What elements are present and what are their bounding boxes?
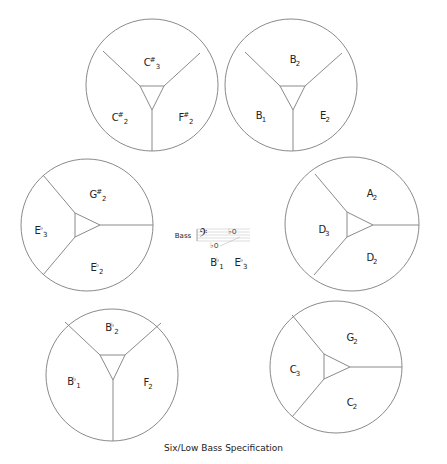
label-top-right-1: B1 <box>256 110 266 124</box>
label-top-right-0: B2 <box>290 54 300 68</box>
note-eb3-icon: ♭o <box>228 227 237 236</box>
label-top-left-0: C#3 <box>144 57 160 71</box>
note-bb1-icon: ♭o <box>210 241 219 250</box>
label-bottom-right-1: C3 <box>290 364 300 378</box>
figure-caption: Six/Low Bass Specification <box>0 443 447 453</box>
label-bottom-right-2: C2 <box>347 397 357 411</box>
circle-mid-right <box>285 157 419 291</box>
circle-top-right <box>225 19 357 151</box>
label-mid-left-0: G#2 <box>89 189 106 203</box>
label-mid-left-1: E♭3 <box>34 225 47 239</box>
label-mid-right-2: D2 <box>366 252 377 266</box>
label-mid-right-0: A2 <box>367 188 377 202</box>
label-mid-right-1: D3 <box>318 224 329 238</box>
label-top-left-2: F#2 <box>178 112 193 126</box>
label-top-left-1: C#2 <box>112 112 128 126</box>
center-note-1: E♭3 <box>234 257 247 271</box>
center-note-0: B♭1 <box>210 257 224 271</box>
bass-clef-icon: 𝄢 <box>199 227 207 242</box>
label-mid-left-2: E♭2 <box>90 262 103 276</box>
label-bottom-left-0: B♭2 <box>105 322 119 336</box>
label-bottom-right-0: G2 <box>346 332 357 346</box>
clef-label: Bass <box>175 233 191 240</box>
label-bottom-left-2: F2 <box>143 377 152 391</box>
label-top-right-2: E2 <box>320 110 330 124</box>
diagram-canvas: 𝄢 ♭o ♭o <box>0 0 447 464</box>
label-bottom-left-1: B♭1 <box>67 376 81 390</box>
circle-top-left <box>86 19 218 151</box>
